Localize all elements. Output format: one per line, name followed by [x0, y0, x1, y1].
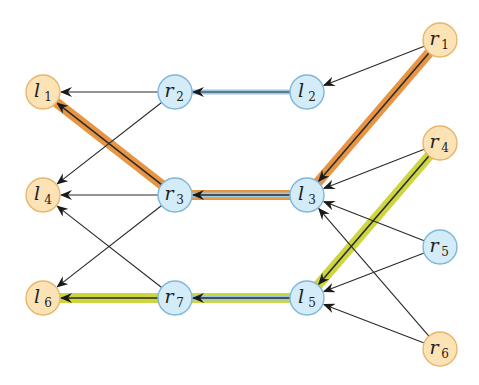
node-circle-r3 — [158, 178, 192, 212]
node-label-l4: l — [34, 182, 40, 204]
node-r5: r5 — [423, 230, 457, 264]
node-subscript-r2: 2 — [176, 90, 184, 104]
node-circle-r4 — [423, 126, 457, 160]
node-r6: r6 — [423, 332, 457, 366]
node-circle-r6 — [423, 332, 457, 366]
node-circle-l5 — [290, 281, 324, 315]
node-label-l3: l — [298, 182, 304, 204]
node-subscript-l6: 6 — [44, 296, 52, 310]
node-circle-l2 — [290, 75, 324, 109]
node-label-l5: l — [298, 285, 304, 307]
node-subscript-r3: 3 — [176, 193, 184, 207]
node-subscript-l1: 1 — [44, 90, 52, 104]
node-subscript-l2: 2 — [308, 90, 316, 104]
node-l5: l5 — [290, 281, 324, 315]
node-circle-l1 — [26, 75, 60, 109]
node-circle-r5 — [423, 230, 457, 264]
bipartite-graph-diagram: l1l4l6r2r3r7l2l3l5r1r4r5r6 — [0, 0, 479, 385]
node-subscript-r5: 5 — [441, 245, 449, 259]
node-r4: r4 — [423, 126, 457, 160]
node-l3: l3 — [290, 178, 324, 212]
node-l4: l4 — [26, 178, 60, 212]
node-circle-r2 — [158, 75, 192, 109]
node-r3: r3 — [158, 178, 192, 212]
highlight-layer — [55, 51, 430, 298]
node-subscript-r7: 7 — [176, 296, 184, 310]
node-subscript-l3: 3 — [308, 193, 316, 207]
node-r2: r2 — [158, 75, 192, 109]
node-subscript-l5: 5 — [308, 296, 316, 310]
node-circle-r1 — [423, 23, 457, 57]
node-subscript-l4: 4 — [44, 193, 52, 207]
node-label-l2: l — [298, 79, 304, 101]
node-subscript-r4: 4 — [441, 141, 449, 155]
edge-r1-to-l3 — [319, 53, 429, 181]
node-circle-l4 — [26, 178, 60, 212]
node-l1: l1 — [26, 75, 60, 109]
edge-r6-to-l5 — [324, 304, 424, 342]
node-r1: r1 — [423, 23, 457, 57]
node-label-l6: l — [34, 285, 40, 307]
node-label-l1: l — [34, 79, 40, 101]
node-subscript-r6: 6 — [441, 347, 449, 361]
node-l2: l2 — [290, 75, 324, 109]
node-r7: r7 — [158, 281, 192, 315]
node-circle-l6 — [26, 281, 60, 315]
node-circle-l3 — [290, 178, 324, 212]
edge-r4-to-l5 — [319, 156, 429, 284]
node-subscript-r1: 1 — [441, 38, 449, 52]
node-l6: l6 — [26, 281, 60, 315]
node-circle-r7 — [158, 281, 192, 315]
